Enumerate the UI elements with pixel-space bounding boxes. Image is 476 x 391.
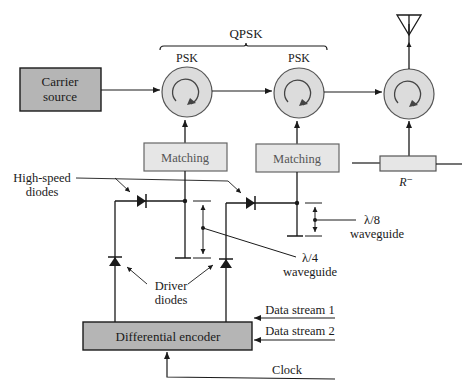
svg-text:Clock: Clock: [272, 363, 303, 377]
svg-text:Data stream 1: Data stream 1: [265, 303, 334, 317]
svg-text:waveguide: waveguide: [283, 265, 338, 279]
diode-icon: [108, 257, 122, 266]
svg-text:diodes: diodes: [26, 185, 59, 199]
data-stream-2-input: Data stream 2: [254, 324, 335, 340]
svg-text:Data stream 2: Data stream 2: [265, 324, 334, 338]
psk-circulator-2: PSK: [274, 51, 324, 118]
antenna-icon: [397, 15, 421, 69]
termination-resistor: R⁻: [352, 121, 462, 189]
stage-2-circuit: [219, 172, 356, 322]
psk-circulator-1: PSK: [162, 51, 212, 117]
svg-text:PSK: PSK: [288, 51, 310, 65]
driver-diodes-label: Driver diodes: [127, 265, 213, 307]
svg-text:R⁻: R⁻: [398, 175, 413, 189]
differential-encoder-block: Differential encoder: [83, 322, 252, 350]
eighth-wave-label: λ/8 waveguide: [350, 213, 405, 241]
diode-icon: [137, 194, 146, 208]
svg-text:Driver: Driver: [155, 279, 188, 293]
svg-text:Matching: Matching: [273, 152, 322, 166]
diode-icon: [246, 196, 255, 210]
svg-text:High-speed: High-speed: [13, 171, 71, 185]
svg-text:waveguide: waveguide: [350, 227, 405, 241]
stage-1-circuit: [108, 171, 296, 322]
svg-text:Matching: Matching: [161, 151, 210, 165]
output-circulator: [384, 69, 434, 119]
matching-block-1: Matching: [144, 120, 227, 171]
carrier-source-block: Carrier source: [20, 68, 101, 111]
high-speed-diodes-label: High-speed diodes: [13, 171, 241, 199]
svg-text:λ/8: λ/8: [364, 213, 380, 227]
qpsk-modulator-diagram: QPSK Carrier source PSK PSK: [0, 0, 476, 391]
svg-text:λ/4: λ/4: [302, 251, 319, 265]
matching-block-2: Matching: [256, 121, 339, 172]
diode-icon: [219, 259, 233, 268]
data-stream-1-input: Data stream 1: [254, 303, 335, 318]
qpsk-brace: QPSK: [160, 26, 327, 50]
svg-text:PSK: PSK: [176, 51, 198, 65]
svg-text:diodes: diodes: [155, 293, 188, 307]
svg-text:Differential encoder: Differential encoder: [116, 329, 221, 344]
svg-text:source: source: [43, 89, 77, 104]
qpsk-label: QPSK: [229, 26, 263, 41]
svg-text:Carrier: Carrier: [42, 74, 79, 89]
clock-input: Clock: [167, 352, 335, 379]
